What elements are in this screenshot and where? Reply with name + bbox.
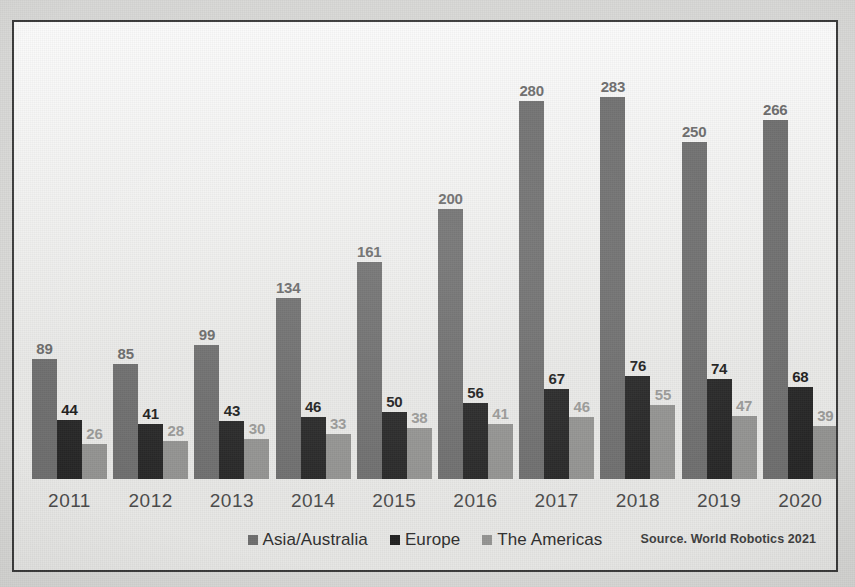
bar-the-americas-2014 [326, 434, 351, 479]
value-label: 280 [519, 82, 543, 99]
value-label: 283 [601, 78, 625, 95]
bar-the-americas-2013 [244, 439, 269, 480]
value-label: 74 [711, 360, 727, 377]
bar-europe-2011 [57, 420, 82, 479]
source-note: Source. World Robotics 2021 [641, 532, 816, 546]
legend-item-the-americas[interactable]: The Americas [482, 530, 602, 550]
bar-the-americas-2011 [82, 444, 107, 479]
bar-europe-2016 [463, 403, 488, 479]
chart-frame: 8944262011854128201299433020131344633201… [12, 20, 838, 572]
value-label: 76 [630, 357, 646, 374]
x-axis-label-2013: 2013 [210, 490, 254, 512]
bar-the-americas-2015 [407, 428, 432, 479]
value-label: 89 [36, 340, 52, 357]
value-label: 46 [305, 398, 321, 415]
bar-asia-australia-2017 [519, 101, 544, 479]
value-label: 43 [224, 402, 240, 419]
value-label: 47 [736, 397, 752, 414]
x-axis-label-2012: 2012 [129, 490, 173, 512]
bar-the-americas-2019 [732, 416, 757, 479]
value-label: 41 [143, 405, 159, 422]
bar-europe-2015 [382, 412, 407, 480]
x-axis-label-2011: 2011 [48, 490, 91, 512]
bar-asia-australia-2016 [438, 209, 463, 479]
x-axis-label-2015: 2015 [372, 490, 416, 512]
bar-europe-2019 [707, 379, 732, 479]
value-label: 33 [330, 415, 346, 432]
bar-europe-2012 [138, 424, 163, 479]
legend-label: Europe [405, 530, 460, 550]
value-label: 161 [357, 243, 381, 260]
value-label: 28 [168, 422, 184, 439]
bar-the-americas-2020 [813, 426, 838, 479]
chart-page: 8944262011854128201299433020131344633201… [0, 0, 855, 587]
value-label: 46 [574, 398, 590, 415]
legend-item-europe[interactable]: Europe [390, 530, 460, 550]
value-label: 266 [763, 101, 787, 118]
bar-the-americas-2016 [488, 424, 513, 479]
x-axis-label-2016: 2016 [453, 490, 497, 512]
x-axis-label-2020: 2020 [778, 490, 822, 512]
bar-europe-2017 [544, 389, 569, 479]
bar-asia-australia-2019 [682, 142, 707, 480]
value-label: 55 [655, 386, 671, 403]
bar-the-americas-2018 [650, 405, 675, 479]
bar-europe-2013 [219, 421, 244, 479]
value-label: 250 [682, 123, 706, 140]
legend-swatch-icon [248, 535, 258, 545]
value-label: 134 [276, 279, 300, 296]
value-label: 67 [549, 370, 565, 387]
bar-asia-australia-2014 [276, 298, 301, 479]
bar-europe-2018 [625, 376, 650, 479]
value-label: 41 [492, 405, 508, 422]
value-label: 99 [199, 326, 215, 343]
value-label: 30 [249, 420, 265, 437]
legend-label: The Americas [497, 530, 602, 550]
x-axis-label-2019: 2019 [697, 490, 741, 512]
bar-asia-australia-2013 [194, 345, 219, 479]
bar-europe-2014 [301, 417, 326, 479]
value-label: 44 [61, 401, 77, 418]
x-axis-label-2018: 2018 [616, 490, 660, 512]
bar-europe-2020 [788, 387, 813, 479]
x-axis-label-2014: 2014 [291, 490, 335, 512]
value-label: 56 [467, 384, 483, 401]
bar-asia-australia-2018 [600, 97, 625, 479]
bar-asia-australia-2011 [32, 359, 57, 479]
bar-asia-australia-2015 [357, 262, 382, 479]
value-label: 50 [386, 393, 402, 410]
value-label: 68 [792, 368, 808, 385]
value-label: 200 [438, 190, 462, 207]
legend-swatch-icon [390, 535, 400, 545]
value-label: 39 [817, 407, 833, 424]
bar-the-americas-2017 [569, 417, 594, 479]
value-label: 38 [411, 409, 427, 426]
bar-asia-australia-2020 [763, 120, 788, 479]
plot-area: 8944262011854128201299433020131344633201… [14, 22, 836, 570]
value-label: 26 [86, 425, 102, 442]
legend-swatch-icon [482, 535, 492, 545]
bar-asia-australia-2012 [113, 364, 138, 479]
x-axis-label-2017: 2017 [535, 490, 579, 512]
legend-item-asia-australia[interactable]: Asia/Australia [248, 530, 368, 550]
bar-the-americas-2012 [163, 441, 188, 479]
legend-label: Asia/Australia [263, 530, 368, 550]
value-label: 85 [118, 345, 134, 362]
